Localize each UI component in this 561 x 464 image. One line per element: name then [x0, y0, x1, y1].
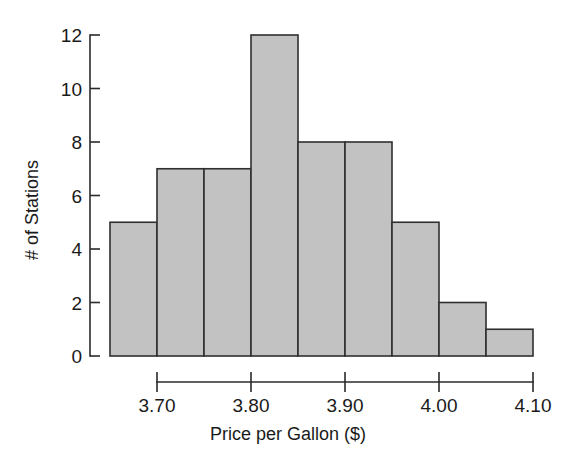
y-tick-label: 12 — [61, 25, 82, 46]
histogram-bar — [486, 329, 533, 356]
histogram-bar — [298, 142, 345, 356]
x-tick-label: 3.70 — [139, 395, 176, 416]
histogram-bar — [392, 222, 439, 356]
x-tick-label: 3.90 — [327, 395, 364, 416]
histogram-bar — [204, 169, 251, 356]
histogram-bar — [157, 169, 204, 356]
histogram-bar — [251, 35, 298, 356]
y-tick-label: 10 — [61, 79, 82, 100]
y-tick-label: 6 — [71, 186, 82, 207]
histogram-bar — [439, 303, 486, 357]
histogram-svg: 024681012 3.703.803.904.004.10 Price per… — [0, 0, 561, 464]
x-tick-label: 4.00 — [421, 395, 458, 416]
x-tick-label: 4.10 — [515, 395, 552, 416]
histogram-bar — [345, 142, 392, 356]
y-tick-label: 8 — [71, 132, 82, 153]
histogram-bar — [110, 222, 157, 356]
y-axis-title: # of Stations — [22, 160, 42, 260]
x-axis-title: Price per Gallon ($) — [210, 424, 366, 444]
x-tick-label: 3.80 — [233, 395, 270, 416]
histogram-figure: 024681012 3.703.803.904.004.10 Price per… — [0, 0, 561, 464]
y-tick-label: 4 — [71, 239, 82, 260]
y-tick-label: 0 — [71, 346, 82, 367]
y-tick-label: 2 — [71, 293, 82, 314]
